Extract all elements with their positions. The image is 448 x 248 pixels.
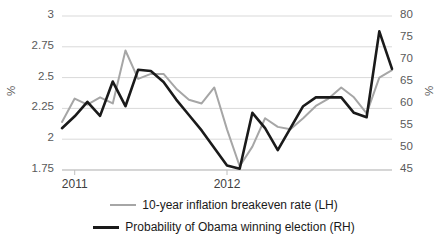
left-axis-tick: 1.75: [0, 162, 54, 174]
series-line-obama-probability: [62, 31, 392, 168]
legend-label: Probability of Obama winning election (R…: [125, 220, 354, 234]
gridlines: [62, 16, 392, 170]
legend-color-swatch: [93, 226, 119, 229]
x-axis-tick: 2012: [197, 177, 257, 191]
right-axis-title: %: [423, 86, 435, 96]
chart-legend: 10-year inflation breakeven rate (LH)Pro…: [0, 194, 448, 238]
right-axis-tick: 60: [400, 96, 440, 108]
right-axis-tick: 75: [400, 30, 440, 42]
chart-container: 1.7522.252.52.753 4550556065707580 20112…: [0, 0, 448, 248]
left-axis-tick: 2.75: [0, 39, 54, 51]
left-axis-title: %: [5, 86, 17, 96]
series-path: [62, 31, 392, 168]
left-axis-tick: 2.25: [0, 100, 54, 112]
right-axis-tick: 65: [400, 74, 440, 86]
right-axis-tick: 80: [400, 8, 440, 20]
legend-item[interactable]: 10-year inflation breakeven rate (LH): [0, 194, 448, 216]
left-axis-tick: 2: [0, 131, 54, 143]
left-axis-tick: 2.5: [0, 70, 54, 82]
left-axis-tick: 3: [0, 8, 54, 20]
right-axis-tick: 50: [400, 140, 440, 152]
legend-label: 10-year inflation breakeven rate (LH): [142, 198, 337, 212]
legend-color-swatch: [110, 204, 136, 206]
right-axis-tick: 70: [400, 52, 440, 64]
right-axis-tick: 55: [400, 118, 440, 130]
axis-lines: [62, 170, 392, 175]
right-axis-tick: 45: [400, 162, 440, 174]
x-axis-tick: 2011: [45, 177, 105, 191]
legend-item[interactable]: Probability of Obama winning election (R…: [0, 216, 448, 238]
